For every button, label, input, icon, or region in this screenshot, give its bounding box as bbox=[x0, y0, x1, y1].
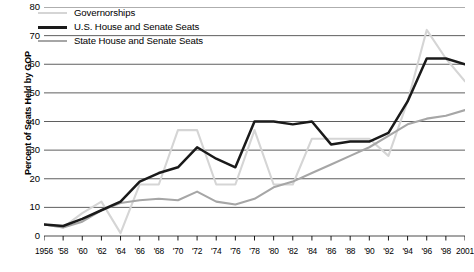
legend-item-us-house-senate: U.S. House and Senate Seats bbox=[38, 20, 248, 34]
legend-swatch-governorships bbox=[38, 12, 67, 14]
chart-legend: Governorships U.S. House and Senate Seat… bbox=[38, 6, 248, 48]
x-tick-label: '86 bbox=[326, 247, 336, 255]
y-tick-label: 0 bbox=[18, 231, 40, 241]
x-tick-label: '60 bbox=[77, 247, 87, 255]
x-tick-label: '90 bbox=[364, 247, 374, 255]
x-tick-label: '64 bbox=[115, 247, 125, 255]
y-tick-label: 70 bbox=[18, 31, 40, 41]
series-line-governorships bbox=[44, 30, 465, 233]
legend-label-state-house-senate: State House and Senate Seats bbox=[74, 36, 203, 46]
x-tick-label: '88 bbox=[345, 247, 355, 255]
figure-caption bbox=[0, 266, 469, 272]
x-tick-label: '76 bbox=[230, 247, 240, 255]
x-tick-label: 2001 bbox=[456, 247, 474, 255]
x-tick-label: '84 bbox=[307, 247, 317, 255]
y-tick-label: 40 bbox=[18, 117, 40, 127]
legend-label-governorships: Governorships bbox=[74, 8, 135, 18]
y-tick-label: 20 bbox=[18, 174, 40, 184]
x-tick-label: '98 bbox=[441, 247, 451, 255]
x-tick-label: '74 bbox=[211, 247, 221, 255]
legend-swatch-us-house-senate bbox=[38, 26, 67, 29]
y-tick-label: 60 bbox=[18, 59, 40, 69]
y-tick-label: 30 bbox=[18, 145, 40, 155]
y-tick-label: 50 bbox=[18, 88, 40, 98]
legend-label-us-house-senate: U.S. House and Senate Seats bbox=[74, 22, 199, 32]
y-tick-label: 10 bbox=[18, 202, 40, 212]
x-tick-label: '96 bbox=[422, 247, 432, 255]
legend-swatch-state-house-senate bbox=[38, 40, 67, 42]
x-tick-label: '70 bbox=[173, 247, 183, 255]
x-tick-label: '66 bbox=[135, 247, 145, 255]
x-axis-tick-labels: 1956'58'60'62'64'66'68'70'72'74'76'78'80… bbox=[44, 247, 465, 261]
y-tick-label: 80 bbox=[18, 2, 40, 12]
series-line-u-s-house-and-senate-seats bbox=[44, 59, 465, 226]
x-tick-label: '72 bbox=[192, 247, 202, 255]
y-axis-tick-labels: 01020304050607080 bbox=[16, 0, 40, 272]
legend-item-state-house-senate: State House and Senate Seats bbox=[38, 34, 248, 48]
x-tick-label: 1956 bbox=[35, 247, 53, 255]
legend-item-governorships: Governorships bbox=[38, 6, 248, 20]
x-tick-label: '82 bbox=[288, 247, 298, 255]
x-tick-label: '58 bbox=[58, 247, 68, 255]
x-tick-label: '62 bbox=[96, 247, 106, 255]
x-tick-label: '68 bbox=[154, 247, 164, 255]
x-tick-label: '94 bbox=[402, 247, 412, 255]
x-tick-label: '78 bbox=[249, 247, 259, 255]
x-tick-label: '80 bbox=[268, 247, 278, 255]
x-tick-label: '92 bbox=[383, 247, 393, 255]
